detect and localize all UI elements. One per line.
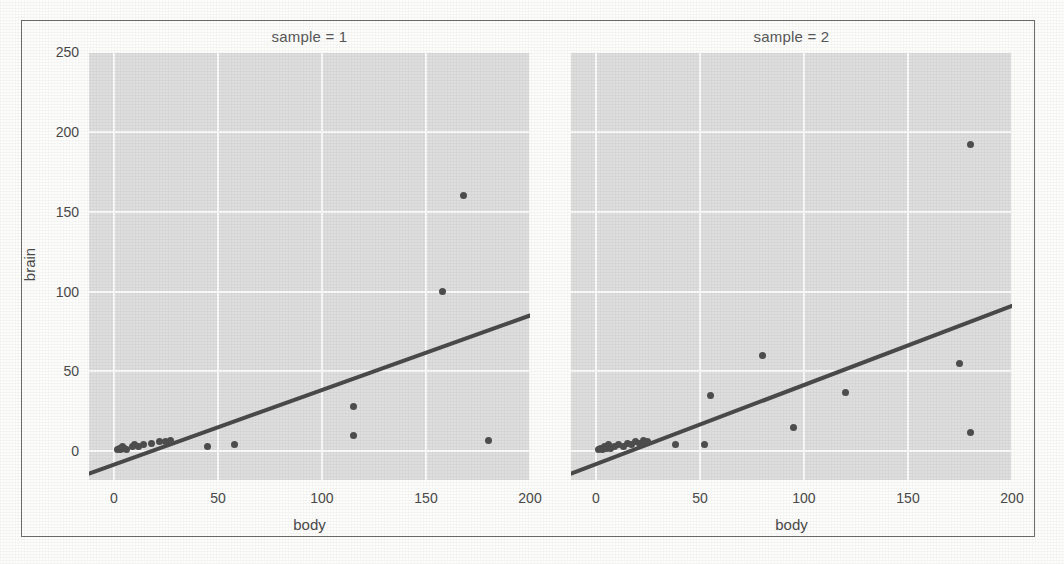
scatter-point — [350, 432, 357, 439]
scatter-point — [967, 141, 974, 148]
plot-area-1 — [89, 52, 530, 480]
x-tick-50: 50 — [692, 490, 708, 506]
facet-panel-title-1: sample = 1 — [89, 28, 530, 45]
scatter-point — [148, 440, 155, 447]
x-tick-0: 0 — [592, 490, 600, 506]
x-tick-200: 200 — [1000, 490, 1023, 506]
y-axis-tick-labels: 050100150200250 — [27, 52, 79, 480]
x-tick-150: 150 — [414, 490, 437, 506]
scatter-point — [707, 392, 714, 399]
y-tick-250: 250 — [56, 44, 79, 60]
scatter-point — [967, 429, 974, 436]
scatter-point — [140, 441, 147, 448]
plot-area-2 — [571, 52, 1012, 480]
y-tick-0: 0 — [71, 443, 79, 459]
x-tick-150: 150 — [896, 490, 919, 506]
y-tick-200: 200 — [56, 124, 79, 140]
y-tick-150: 150 — [56, 204, 79, 220]
x-axis-tick-labels-2: 050100150200 — [571, 490, 1012, 512]
x-axis-label-1: body — [89, 516, 530, 533]
scatter-point — [204, 443, 211, 450]
x-axis-tick-labels-1: 050100150200 — [89, 490, 530, 512]
regression-line-1 — [89, 52, 530, 480]
scatter-point — [672, 441, 679, 448]
x-tick-100: 100 — [792, 490, 815, 506]
y-tick-50: 50 — [63, 363, 79, 379]
scatter-point — [350, 403, 357, 410]
scatter-point — [167, 437, 174, 444]
scatter-point — [790, 424, 797, 431]
scatter-point — [842, 389, 849, 396]
regression-line-2 — [571, 52, 1012, 480]
scatter-point — [759, 352, 766, 359]
x-tick-50: 50 — [210, 490, 226, 506]
y-tick-100: 100 — [56, 284, 79, 300]
facet-panel-sample-1: sample = 1 050100150200 body — [89, 52, 530, 480]
x-tick-100: 100 — [310, 490, 333, 506]
x-tick-0: 0 — [110, 490, 118, 506]
scatter-point — [701, 441, 708, 448]
scatter-point — [485, 437, 492, 444]
x-axis-label-2: body — [571, 516, 1012, 533]
facet-panel-title-2: sample = 2 — [571, 28, 1012, 45]
figure-canvas: brain 050100150200250 sample = 1 0501001… — [0, 0, 1064, 564]
facet-panel-sample-2: sample = 2 050100150200 body — [571, 52, 1012, 480]
x-tick-200: 200 — [518, 490, 541, 506]
